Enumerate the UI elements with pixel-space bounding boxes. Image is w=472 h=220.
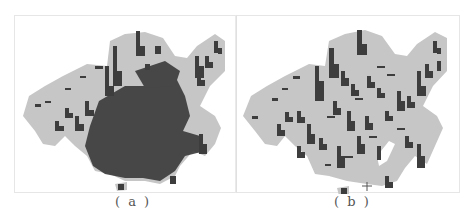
caption-a: ( a ) <box>115 194 151 209</box>
map-b-svg <box>237 16 461 194</box>
map-panel-a <box>14 15 236 193</box>
map-panel-b <box>236 15 460 193</box>
map-a-svg <box>15 16 237 194</box>
caption-b: ( b ) <box>334 194 371 209</box>
